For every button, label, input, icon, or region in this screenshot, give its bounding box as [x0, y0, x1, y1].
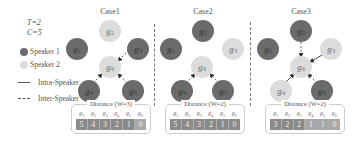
- table-header: g1: [270, 110, 282, 118]
- case1-distance-table: Distance (W=3) g1 g2 g3 g4 g5 g6 5 4 3 2…: [71, 104, 151, 134]
- case3-node-g5: g5: [311, 80, 333, 102]
- table-header: g4: [111, 110, 123, 118]
- table-cell: 3: [270, 119, 282, 130]
- case3-node-g2: g2: [290, 20, 312, 42]
- table-cell: 1: [305, 119, 317, 130]
- case2-node-g4: g4: [171, 80, 193, 102]
- table-cell: 3: [194, 119, 206, 130]
- case1-node-g3: g3: [127, 38, 149, 60]
- table-cell: 2: [282, 119, 294, 130]
- table-cell: 5: [170, 119, 182, 130]
- table-header: g2: [182, 110, 194, 118]
- table-cell: 2: [294, 119, 306, 130]
- table-cell: 4: [88, 119, 100, 130]
- table-header: g4: [205, 110, 217, 118]
- table-cell: 1: [217, 119, 229, 130]
- case3-title: Case3: [271, 7, 331, 16]
- table-header: g3: [193, 110, 205, 118]
- table-cell: 3: [100, 119, 112, 130]
- table-header: g5: [123, 110, 135, 118]
- case3-node-g4: g4: [270, 80, 292, 102]
- case1-node-g5: g5: [122, 80, 144, 102]
- table-header: g6: [328, 110, 340, 118]
- table-header: g5: [317, 110, 329, 118]
- case1-node-g1: g1: [66, 38, 88, 60]
- case2-distance-table: Distance (W=2) g1 g2 g3 g4 g5 g6 5 4 3 2…: [165, 104, 245, 134]
- table-header: g5: [217, 110, 229, 118]
- table-header: g3: [99, 110, 111, 118]
- case2-node-g6: g6: [191, 56, 213, 78]
- case2-node-g5: g5: [212, 80, 234, 102]
- table-header: g6: [228, 110, 240, 118]
- case3-node-g6: g6: [290, 56, 312, 78]
- case2-node-g1: g1: [160, 38, 182, 60]
- table-header: g1: [170, 110, 182, 118]
- case3-table-title: Distance (W=2): [281, 100, 329, 107]
- table-cell: 0: [329, 119, 340, 130]
- case1-node-g6: g6: [99, 56, 121, 78]
- case2-table-title: Distance (W=2): [181, 100, 229, 107]
- table-cell: 2: [205, 119, 217, 130]
- table-header: g3: [293, 110, 305, 118]
- case1-node-g2: g2: [99, 20, 121, 42]
- table-cell: 5: [76, 119, 88, 130]
- case1-node-g4: g4: [78, 80, 100, 102]
- table-cell: 0: [229, 119, 240, 130]
- table-cell: 1: [123, 119, 135, 130]
- table-cell: 0: [135, 119, 146, 130]
- case3-node-g1: g1: [257, 38, 279, 60]
- table-header: g1: [76, 110, 88, 118]
- case2-title: Case2: [173, 7, 233, 16]
- case3-distance-table: Distance (W=2) g1 g2 g3 g4 g5 g6 3 2 2 1…: [265, 104, 345, 134]
- case1-table-title: Distance (W=3): [87, 100, 135, 107]
- table-header: g2: [88, 110, 100, 118]
- table-header: g4: [305, 110, 317, 118]
- table-cell: 1: [317, 119, 329, 130]
- case2-node-g3: g3: [222, 38, 244, 60]
- table-header: g6: [134, 110, 146, 118]
- table-cell: 4: [182, 119, 194, 130]
- table-cell: 2: [111, 119, 123, 130]
- case3-node-g3: g3: [320, 38, 342, 60]
- table-header: g2: [282, 110, 294, 118]
- case1-title: Case1: [80, 7, 140, 16]
- case2-node-g2: g2: [192, 20, 214, 42]
